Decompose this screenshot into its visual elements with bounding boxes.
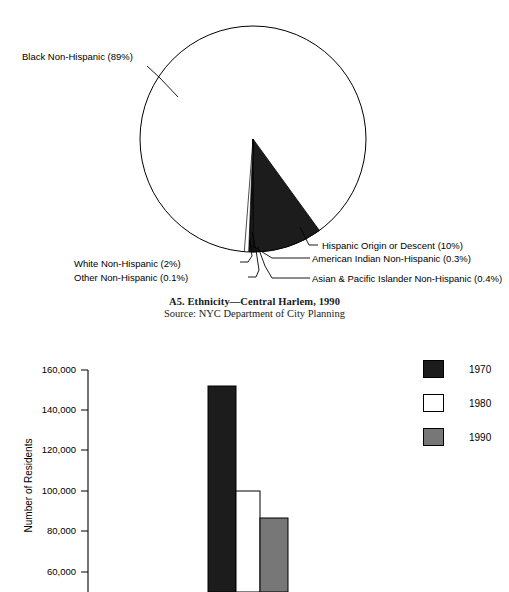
pie-label-white-non-hispanic: White Non-Hispanic (2%): [74, 258, 181, 269]
pie-chart-figure: Black Non-Hispanic (89%) Hispanic Origin…: [0, 0, 509, 340]
bar-1980: [236, 491, 260, 592]
y-axis-label-120000: 120,000: [6, 444, 76, 455]
pie-label-other-non-hispanic: Other Non-Hispanic (0.1%): [74, 272, 188, 283]
legend-swatch-1970: [423, 360, 444, 378]
legend-label-1970: 1970: [469, 364, 491, 375]
figure-caption: A5. Ethnicity—Central Harlem, 1990 Sourc…: [0, 296, 509, 319]
y-axis-title: Number of Residents: [23, 406, 34, 566]
bar-1990: [260, 518, 288, 592]
y-axis-label-80000: 80,000: [6, 525, 76, 536]
caption-source: Source: NYC Department of City Planning: [0, 308, 509, 319]
legend-swatch-1980: [423, 394, 444, 412]
bar-chart-legend: 1970 1980 1990: [423, 358, 491, 460]
y-axis-label-160000: 160,000: [6, 364, 76, 375]
pie-label-hispanic: Hispanic Origin or Descent (10%): [322, 240, 463, 251]
pie-label-black-non-hispanic: Black Non-Hispanic (89%): [22, 51, 133, 62]
legend-swatch-1990: [423, 428, 444, 446]
legend-label-1990: 1990: [469, 432, 491, 443]
y-axis-label-100000: 100,000: [6, 485, 76, 496]
figure-page: Black Non-Hispanic (89%) Hispanic Origin…: [0, 0, 509, 592]
caption-title: A5. Ethnicity—Central Harlem, 1990: [0, 296, 509, 307]
legend-label-1980: 1980: [469, 398, 491, 409]
legend-item-1980: 1980: [423, 392, 491, 414]
legend-item-1990: 1990: [423, 426, 491, 448]
bar-chart-figure: 160,000 140,000 120,000 100,000 80,000 6…: [0, 340, 509, 592]
pie-label-american-indian: American Indian Non-Hispanic (0.3%): [312, 253, 471, 264]
pie-label-asian-pacific-islander: Asian & Pacific Islander Non-Hispanic (0…: [312, 273, 502, 284]
legend-item-1970: 1970: [423, 358, 491, 380]
y-axis-label-140000: 140,000: [6, 404, 76, 415]
bar-1970: [208, 386, 236, 592]
y-axis-label-60000: 60,000: [6, 566, 76, 577]
